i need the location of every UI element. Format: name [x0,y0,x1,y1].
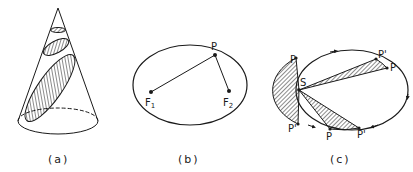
line-f1-p [151,55,215,92]
sector-perihelion [273,58,299,124]
caption-a: (a) [48,153,69,166]
label-p-prime-bottom: P' [357,129,366,140]
panel-c-equal-areas: S P P' P' P P P' (c) [273,49,408,166]
caption-c: (c) [330,153,351,166]
panel-b-ellipse-foci: P F1 F2 (b) [133,41,247,166]
circle-section [51,28,66,33]
label-p-prime-bottom-left: P' [288,123,297,134]
label-f2: F2 [223,97,233,110]
panel-a-cone: (a) [17,8,98,166]
focus-s [297,88,301,92]
label-p-top-left: P [290,54,296,65]
orbit-arrow-bottom-left [308,125,314,127]
caption-b: (b) [178,153,200,166]
cone-base-front [18,121,98,134]
label-p-bottom: P [326,131,332,142]
point-p [213,53,217,57]
sector-bottom [299,90,359,130]
label-p-prime-top-right: P' [378,49,387,60]
point-p-right [385,66,388,69]
focus-f2 [227,89,231,93]
focus-f1 [149,90,153,94]
sector-aphelion [299,59,387,90]
label-f1: F1 [145,97,155,110]
large-ellipse-section [17,48,83,127]
ellipse-b [133,45,247,125]
conic-sections-figure: (a) P F1 F2 (b) S P P' [0,0,413,172]
orbit-arrow-right [408,94,409,98]
label-p-right: P [390,62,396,73]
line-p-f2 [215,55,229,91]
label-p: P [211,41,217,52]
point-p-prime-bottom-left [296,122,299,125]
label-s: S [300,77,306,88]
